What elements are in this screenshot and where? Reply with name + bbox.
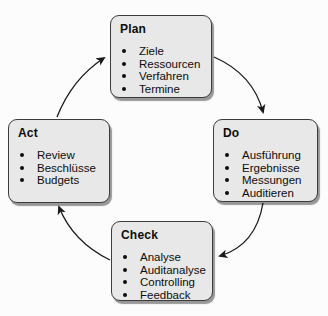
arrow-act-to-plan (57, 58, 104, 117)
bullet-icon (122, 74, 126, 78)
list-item-label: Auditanalyse (140, 264, 206, 276)
bullet-icon (122, 49, 126, 53)
list-item: Termine (120, 83, 205, 96)
list-item: Review (18, 149, 103, 162)
list-item: Messungen (223, 174, 311, 187)
arrow-do-to-check (220, 203, 263, 256)
bullet-icon (225, 153, 229, 157)
list-item: Ressourcen (120, 58, 205, 71)
arrow-plan-to-do (214, 57, 263, 112)
list-item-label: Ressourcen (139, 58, 200, 70)
list-item-label: Review (37, 149, 75, 161)
bullet-icon (20, 166, 24, 170)
list-item-label: Feedback (140, 289, 191, 301)
list-item: Ausführung (223, 149, 311, 162)
node-act-title: Act (18, 127, 103, 140)
list-item: Ziele (120, 45, 205, 58)
list-item: Verfahren (120, 70, 205, 83)
list-item: Analyse (121, 251, 206, 264)
list-item: Ergebnisse (223, 162, 311, 175)
list-item-label: Verfahren (139, 70, 189, 82)
arrow-check-to-act (59, 207, 110, 260)
node-do: Do Ausführung Ergebnisse Messungen Audit… (213, 119, 318, 202)
bullet-icon (225, 191, 229, 195)
list-item: Beschlüsse (18, 162, 103, 175)
node-plan-items: Ziele Ressourcen Verfahren Termine (120, 45, 205, 95)
list-item-label: Beschlüsse (37, 162, 96, 174)
node-do-items: Ausführung Ergebnisse Messungen Auditier… (223, 149, 311, 199)
bullet-icon (122, 62, 126, 66)
list-item: Controlling (121, 276, 206, 289)
bullet-icon (122, 87, 126, 91)
list-item-label: Auditieren (242, 187, 294, 199)
list-item-label: Ergebnisse (242, 162, 300, 174)
list-item-label: Analyse (140, 251, 181, 263)
bullet-icon (123, 268, 127, 272)
list-item-label: Ziele (139, 45, 164, 57)
list-item-label: Messungen (242, 174, 301, 186)
list-item-label: Termine (139, 83, 180, 95)
node-plan-title: Plan (120, 23, 205, 36)
bullet-icon (123, 280, 127, 284)
list-item-label: Ausführung (242, 149, 301, 161)
node-act: Act Review Beschlüsse Budgets (8, 119, 110, 203)
bullet-icon (123, 255, 127, 259)
pdca-cycle-diagram: Plan Ziele Ressourcen Verfahren Termine … (0, 0, 328, 316)
list-item-label: Budgets (37, 174, 79, 186)
list-item: Budgets (18, 174, 103, 187)
node-plan: Plan Ziele Ressourcen Verfahren Termine (110, 15, 212, 98)
bullet-icon (20, 178, 24, 182)
node-do-title: Do (223, 127, 311, 140)
node-check-title: Check (121, 229, 206, 242)
bullet-icon (225, 166, 229, 170)
bullet-icon (123, 293, 127, 297)
list-item: Auditieren (223, 187, 311, 200)
bullet-icon (20, 153, 24, 157)
node-act-items: Review Beschlüsse Budgets (18, 149, 103, 187)
bullet-icon (225, 178, 229, 182)
node-check-items: Analyse Auditanalyse Controlling Feedbac… (121, 251, 206, 301)
node-check: Check Analyse Auditanalyse Controlling F… (111, 221, 213, 301)
list-item: Feedback (121, 289, 206, 302)
list-item: Auditanalyse (121, 264, 206, 277)
list-item-label: Controlling (140, 276, 195, 288)
